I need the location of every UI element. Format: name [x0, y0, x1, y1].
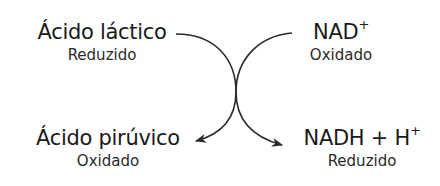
pyruvic-acid-label: Ácido pirúvico — [22, 126, 194, 150]
redox-diagram: Ácido láctico Reduzido NAD+ Oxidado Ácid… — [0, 0, 440, 186]
pyruvic-acid-state: Oxidado — [22, 152, 194, 170]
node-nad: NAD+ Oxidado — [300, 20, 382, 64]
nadh-label: NADH + H+ — [296, 126, 428, 150]
arrow-lactic-to-pyruvic — [176, 34, 236, 141]
node-pyruvic-acid: Ácido pirúvico Oxidado — [22, 126, 194, 170]
node-nadh: NADH + H+ Reduzido — [296, 126, 428, 170]
node-lactic-acid: Ácido láctico Reduzido — [24, 20, 180, 64]
lactic-acid-label: Ácido láctico — [24, 20, 180, 44]
nadh-label-base: NADH + H — [304, 126, 410, 150]
nad-label: NAD+ — [300, 20, 382, 44]
nad-label-base: NAD — [313, 20, 358, 44]
nad-label-charge: + — [358, 17, 369, 32]
lactic-acid-state: Reduzido — [24, 46, 180, 64]
nadh-label-charge: + — [410, 123, 421, 138]
arrow-nad-to-nadh — [236, 33, 292, 145]
nad-state: Oxidado — [300, 46, 382, 64]
nadh-state: Reduzido — [296, 152, 428, 170]
